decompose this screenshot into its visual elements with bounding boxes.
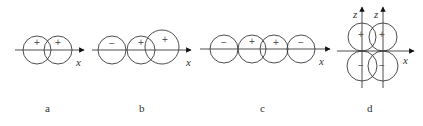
plus-sign: + <box>249 37 255 47</box>
minus-sign: − <box>109 39 115 49</box>
plus-sign: + <box>162 35 168 45</box>
plus-sign: + <box>379 30 385 40</box>
panel-label-d: d <box>367 103 373 114</box>
panel-label-b: b <box>139 103 145 114</box>
plus-sign: + <box>34 38 40 48</box>
plus-sign: + <box>273 38 279 48</box>
minus-sign: − <box>298 38 304 48</box>
plus-sign: + <box>358 30 364 40</box>
x-axis-label: x <box>76 57 81 68</box>
x-axis-label: x <box>319 56 324 67</box>
minus-sign: − <box>358 61 364 71</box>
plus-sign: + <box>55 38 61 48</box>
plus-sign: + <box>138 38 144 48</box>
panel-label-a: a <box>45 103 50 114</box>
x-axis-label: x <box>186 57 191 68</box>
minus-sign: − <box>379 61 385 71</box>
z-axis-label: z <box>353 9 357 20</box>
z-axis-label: z <box>374 9 378 20</box>
minus-sign: − <box>221 38 227 48</box>
panel-label-c: c <box>260 103 265 114</box>
x-axis-label: x <box>403 55 408 66</box>
